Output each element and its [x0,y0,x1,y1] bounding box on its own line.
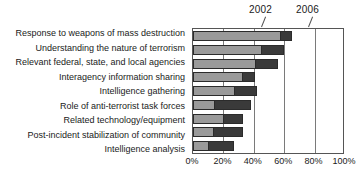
bar-row [193,59,343,69]
bar-segment-2002 [193,31,280,41]
annotation-2006-label: 2006 [296,4,319,15]
x-tick-label: 0% [185,156,198,166]
bar-row [193,72,343,82]
bar-row [193,31,343,41]
bar-segment-2002 [193,86,234,96]
annotation-2002-label: 2002 [249,4,272,15]
category-label: Intelligence gathering [0,86,189,96]
bar-row [193,86,343,96]
category-label: Post-incident stabilization of community [0,130,189,140]
bar-row [193,141,343,151]
bar-segment-2002 [193,45,261,55]
annotation-2006-leader-line [308,17,313,28]
bar-segment-2006 [261,45,284,55]
bar-segment-2006 [280,31,292,41]
stacked-bar-chart: 2002 2006 Response to weapons of mass de… [0,0,362,179]
x-tick-label: 80% [305,156,323,166]
category-label: Intelligence analysis [0,144,189,154]
bar-segment-2002 [193,100,214,110]
category-label: Interagency information sharing [0,72,189,82]
bar-segment-2006 [234,86,257,96]
value-axis-labels: 0%20%40%60%80%100% [192,156,344,170]
bar-segment-2002 [193,72,242,82]
bar-segment-2002 [193,127,213,137]
category-axis-labels: Response to weapons of mass destructionU… [0,28,189,154]
bar-row [193,127,343,137]
x-tick-label: 60% [274,156,292,166]
bar-segment-2006 [213,127,243,137]
x-tick-label: 20% [213,156,231,166]
bar-series-container [193,29,343,153]
bar-row [193,100,343,110]
bar-segment-2006 [214,100,250,110]
bar-segment-2006 [208,141,234,151]
bar-segment-2006 [223,114,243,124]
category-label: Related technology/equipment [0,115,189,125]
category-label: Response to weapons of mass destruction [0,28,189,38]
annotation-2002-leader-line [261,17,266,28]
bar-row [193,114,343,124]
category-label: Understanding the nature of terrorism [0,43,189,53]
bar-segment-2002 [193,114,223,124]
bar-segment-2006 [242,72,256,82]
bar-segment-2002 [193,141,208,151]
category-label: Relevant federal, state, and local agenc… [0,57,189,67]
x-tick-label: 40% [244,156,262,166]
bar-row [193,45,343,55]
bar-segment-2006 [255,59,278,69]
category-label: Role of anti-terrorist task forces [0,101,189,111]
plot-area [192,28,344,154]
x-tick-label: 100% [332,156,355,166]
bar-segment-2002 [193,59,255,69]
